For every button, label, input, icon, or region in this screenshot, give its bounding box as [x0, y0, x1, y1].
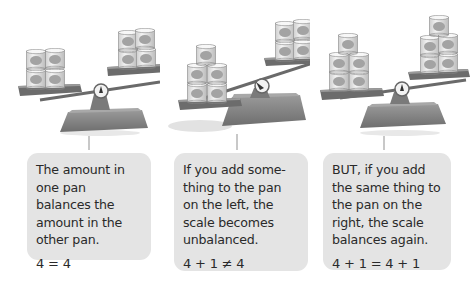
card-equation: 4 + 1 ≠ 4	[183, 255, 300, 273]
connector-line	[236, 134, 238, 150]
card-description: BUT, if you add the same thing to the pa…	[332, 161, 443, 249]
balance-scale-level	[310, 0, 472, 150]
explanation-card: If you add some-thing to the pan on the …	[174, 153, 308, 271]
card-equation: 4 = 4	[36, 255, 143, 273]
scale-base	[60, 110, 148, 132]
card-equation: 4 + 1 = 4 + 1	[332, 255, 443, 273]
panel-unbalanced: If you add some-thing to the pan on the …	[160, 0, 310, 289]
connector-line	[88, 136, 90, 150]
balance-scale-tilted	[160, 0, 310, 150]
panel-balanced: The amount in one pan balances the amoun…	[0, 0, 160, 289]
explanation-card: The amount in one pan balances the amoun…	[27, 153, 151, 260]
panel-rebalanced: BUT, if you add the same thing to the pa…	[310, 0, 472, 289]
pivot-icon	[255, 79, 269, 93]
scale-base	[360, 104, 446, 128]
explanation-card: BUT, if you add the same thing to the pa…	[323, 153, 451, 270]
connector-line	[383, 136, 385, 150]
balance-scale-level	[0, 0, 160, 150]
card-description: The amount in one pan balances the amoun…	[36, 161, 143, 249]
card-description: If you add some-thing to the pan on the …	[183, 161, 300, 249]
